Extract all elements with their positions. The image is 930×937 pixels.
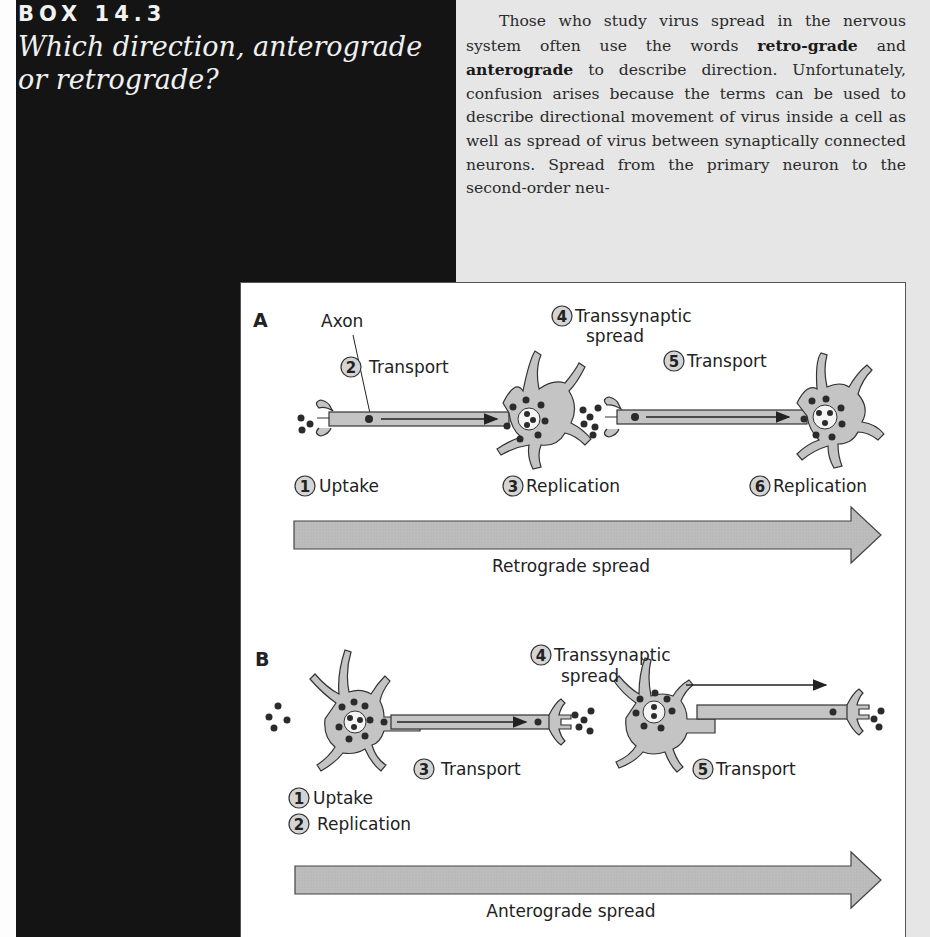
step-a-3: 3 Replication [503, 476, 620, 496]
svg-text:3: 3 [419, 761, 429, 779]
svg-text:5: 5 [669, 353, 679, 371]
term-anterograde: anterograde [466, 60, 573, 79]
step-a-4: 4 Transsynaptic spread [552, 306, 692, 346]
svg-text:spread: spread [586, 326, 644, 346]
box-title-line-2: or retrograde? [18, 63, 458, 96]
step-a-2: 2 Transport [341, 357, 449, 377]
step-b-1: 1 Uptake [289, 788, 373, 808]
svg-text:4: 4 [536, 647, 546, 665]
step-b-3: 3 Transport [414, 759, 521, 779]
svg-text:Replication: Replication [526, 476, 620, 496]
anterograde-arrow-icon [295, 852, 881, 908]
step-b-2: 2 Replication [289, 814, 411, 834]
svg-text:Transport: Transport [368, 357, 449, 377]
box-title: Which direction, anterograde or retrogra… [18, 30, 458, 96]
svg-text:spread: spread [561, 666, 619, 686]
svg-text:1: 1 [300, 478, 310, 496]
axon-label: Axon [321, 311, 363, 331]
svg-text:Replication: Replication [773, 476, 867, 496]
panel-b-letter: B [255, 648, 269, 670]
box-number: BOX 14.3 [18, 2, 166, 26]
virus-particles-a1 [298, 415, 314, 434]
figure-diagram: A Axon [240, 282, 906, 937]
svg-text:Transsynaptic: Transsynaptic [553, 645, 671, 665]
svg-text:1: 1 [294, 790, 304, 808]
body-text-2: and [858, 37, 906, 55]
svg-text:Uptake: Uptake [313, 788, 373, 808]
retrograde-arrow-icon [294, 507, 881, 563]
svg-text:Transport: Transport [715, 759, 796, 779]
virus-particles-b1 [266, 703, 291, 732]
neuron-b1 [310, 650, 571, 771]
retrograde-label: Retrograde spread [492, 556, 650, 576]
svg-text:Replication: Replication [317, 814, 411, 834]
term-retrograde: retro-grade [757, 36, 857, 55]
anterograde-label: Anterograde spread [486, 901, 655, 921]
svg-text:2: 2 [294, 816, 304, 834]
svg-text:4: 4 [557, 308, 567, 326]
body-paragraph: Those who study virus spread in the nerv… [466, 10, 906, 201]
svg-text:Transsynaptic: Transsynaptic [574, 306, 692, 326]
panel-a: A Axon [253, 306, 884, 576]
svg-text:3: 3 [508, 478, 518, 496]
svg-text:6: 6 [755, 478, 765, 496]
step-a-1: 1 Uptake [295, 476, 379, 496]
svg-text:Transport: Transport [440, 759, 521, 779]
panel-b: B [255, 645, 885, 921]
virus-particles-b3 [871, 708, 885, 731]
neuron-b2 [614, 658, 869, 772]
box-title-line-1: Which direction, anterograde [18, 30, 458, 63]
virus-particles-b2 [572, 708, 595, 735]
panel-a-letter: A [253, 309, 268, 331]
svg-text:5: 5 [698, 761, 708, 779]
step-b-5: 5 Transport [693, 759, 796, 779]
step-a-6: 6 Replication [750, 476, 867, 496]
step-a-5: 5 Transport [664, 351, 767, 371]
body-text-3: to describe direction. Unfortunately, co… [466, 61, 906, 197]
svg-text:Uptake: Uptake [319, 476, 379, 496]
svg-text:Transport: Transport [686, 351, 767, 371]
svg-text:2: 2 [346, 359, 356, 377]
